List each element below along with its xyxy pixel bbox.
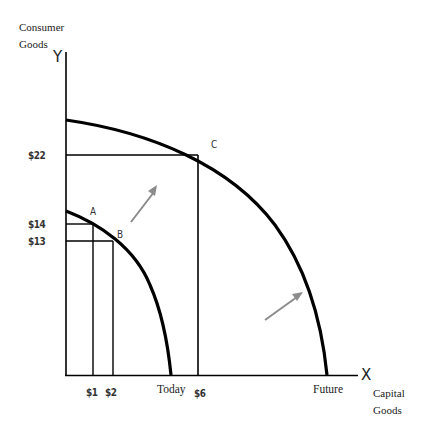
point-label-c: C <box>211 139 217 150</box>
tick-y-13: $13 <box>28 236 45 247</box>
tick-y-14: $14 <box>28 219 45 230</box>
point-label-a: A <box>90 206 96 217</box>
x-axis-letter: X <box>361 368 371 383</box>
tick-y-22: $22 <box>28 150 45 161</box>
future-curve <box>66 120 327 375</box>
x-axis-title-line1: Capital <box>373 385 405 402</box>
tick-x-6: $6 <box>194 388 205 399</box>
x-axis-title: Capital Goods <box>373 385 405 419</box>
y-axis-title-line1: Consumer <box>19 19 64 36</box>
ppf-diagram: Consumer Goods Y $22 $14 $13 A B C $1 $2… <box>0 0 430 437</box>
curve-label-today: Today <box>157 384 186 396</box>
shift-arrow-lower <box>265 292 303 320</box>
x-axis-title-line2: Goods <box>373 402 405 419</box>
tick-x-2: $2 <box>105 387 116 398</box>
point-label-b: B <box>117 229 123 240</box>
y-axis-letter: Y <box>53 50 62 65</box>
curve-label-future: Future <box>313 384 343 396</box>
tick-x-1: $1 <box>86 387 97 398</box>
shift-arrow-upper <box>131 185 157 222</box>
